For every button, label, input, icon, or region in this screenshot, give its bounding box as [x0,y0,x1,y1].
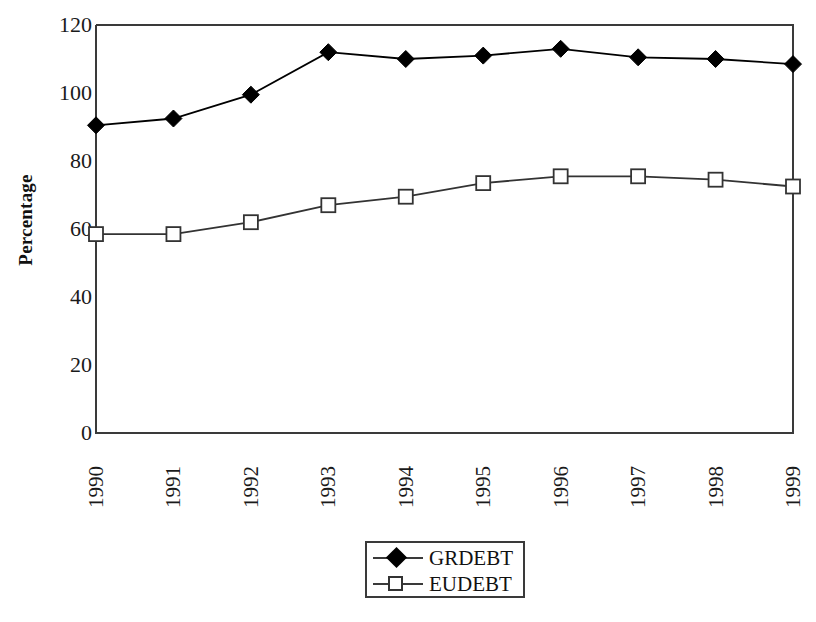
data-point-open-square [709,173,723,187]
legend-entry-eudebt: EUDEBT [367,571,523,597]
x-tick-label-holder: 1995 [471,442,495,532]
data-point-open-square [89,227,103,241]
x-tick-label: 1999 [781,442,805,532]
legend-entry-grdebt: GRDEBT [367,545,523,571]
x-tick-label: 1998 [704,442,728,532]
legend-label: GRDEBT [429,547,513,569]
line-chart: Percentage 120 100 80 60 40 20 0 1990199… [0,0,816,622]
data-point-open-square [476,176,490,190]
data-point-open-square [321,198,335,212]
data-point-open-square [554,169,568,183]
data-point-filled-diamond [165,110,182,127]
x-tick-label: 1994 [394,442,418,532]
chart-legend: GRDEBT EUDEBT [365,541,525,598]
x-tick-label-holder: 1998 [704,442,728,532]
x-tick-label: 1996 [549,442,573,532]
series-grdebt [88,40,802,134]
legend-label: EUDEBT [429,573,512,595]
data-point-filled-diamond [242,86,259,103]
data-point-open-square [166,227,180,241]
x-tick-label-holder: 1994 [394,442,418,532]
data-point-filled-diamond [397,51,414,68]
series-line [96,49,793,126]
open-square-marker-icon [367,572,429,596]
x-tick-label: 1993 [316,442,340,532]
data-point-open-square [786,180,800,194]
data-point-filled-diamond [630,49,647,66]
data-point-filled-diamond [475,47,492,64]
x-tick-label-holder: 1992 [239,442,263,532]
x-tick-label-holder: 1997 [626,442,650,532]
x-tick-label: 1990 [84,442,108,532]
data-point-filled-diamond [785,56,802,73]
series-eudebt [89,169,800,241]
data-point-open-square [399,190,413,204]
data-point-filled-diamond [320,44,337,61]
x-tick-label-holder: 1993 [316,442,340,532]
data-point-filled-diamond [552,40,569,57]
data-point-open-square [631,169,645,183]
axis-frame [96,25,793,433]
x-tick-label: 1995 [471,442,495,532]
series-layer [88,40,802,241]
x-tick-label: 1991 [161,442,185,532]
x-tick-label-holder: 1996 [549,442,573,532]
x-tick-label-holder: 1990 [84,442,108,532]
x-tick-label: 1997 [626,442,650,532]
filled-diamond-marker-icon [367,546,429,570]
x-tick-label-holder: 1999 [781,442,805,532]
data-point-filled-diamond [88,117,105,134]
x-tick-label-holder: 1991 [161,442,185,532]
series-line [96,176,793,234]
x-tick-label: 1992 [239,442,263,532]
data-point-filled-diamond [707,51,724,68]
data-point-open-square [244,215,258,229]
